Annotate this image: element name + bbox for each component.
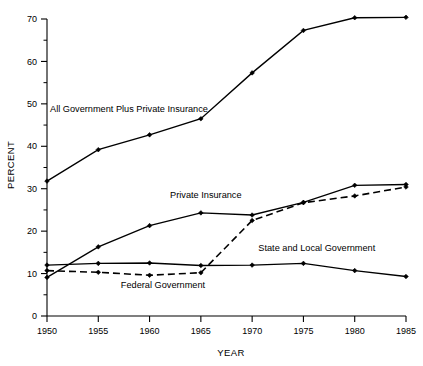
y-tick-label: 60 [27, 57, 37, 67]
series-data-point [199, 211, 204, 216]
series-data-point [96, 270, 101, 275]
series-label-0: All Government Plus Private Insurance [50, 104, 208, 114]
y-tick-label: 30 [27, 184, 37, 194]
x-axis-title: YEAR [217, 347, 244, 358]
x-tick-label: 1965 [191, 326, 211, 336]
y-tick-label: 70 [27, 14, 37, 24]
series-data-point [96, 261, 101, 266]
series-data-point [147, 273, 152, 278]
series-data-point [352, 268, 357, 273]
y-tick-label: 40 [27, 141, 37, 151]
series-data-point [45, 263, 50, 268]
series-data-point [147, 223, 152, 228]
series-path [47, 17, 406, 181]
series-data-point [199, 263, 204, 268]
chart-page: 0102030405060701950195519601965197019751… [0, 0, 423, 366]
series-path [47, 263, 406, 277]
x-tick-label: 1960 [140, 326, 160, 336]
x-tick-label: 1955 [88, 326, 108, 336]
series-lines [45, 15, 409, 280]
series-data-point [45, 268, 50, 273]
x-tick-label: 1980 [345, 326, 365, 336]
y-tick-label: 20 [27, 226, 37, 236]
axes: 0102030405060701950195519601965197019751… [27, 14, 416, 336]
y-axis-title: PERCENT [5, 141, 16, 189]
series-label-1: Private Insurance [170, 190, 242, 200]
series-data-point [352, 15, 357, 20]
series-data-point [250, 213, 255, 218]
series-label-3: Federal Government [121, 280, 206, 290]
series-data-point [250, 263, 255, 268]
series-data-point [301, 261, 306, 266]
line-chart: 0102030405060701950195519601965197019751… [0, 0, 423, 366]
y-tick-label: 50 [27, 99, 37, 109]
y-tick-label: 10 [27, 269, 37, 279]
series-data-point [404, 274, 409, 279]
series-data-point [147, 261, 152, 266]
series-0 [45, 15, 409, 183]
x-tick-label: 1975 [293, 326, 313, 336]
x-tick-label: 1970 [242, 326, 262, 336]
series-data-point [352, 183, 357, 188]
series-label-2: State and Local Government [258, 243, 375, 253]
series-path [47, 187, 406, 275]
x-tick-label: 1950 [37, 326, 57, 336]
series-data-point [404, 15, 409, 20]
series-data-point [352, 194, 357, 199]
series-data-point [147, 133, 152, 138]
y-tick-label: 0 [32, 311, 37, 321]
x-tick-label: 1985 [396, 326, 416, 336]
series-2 [45, 261, 409, 279]
